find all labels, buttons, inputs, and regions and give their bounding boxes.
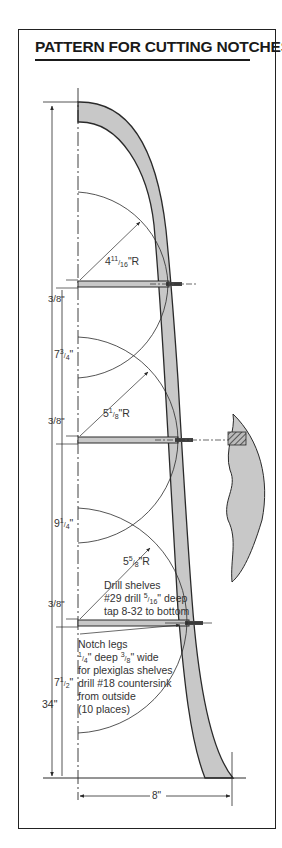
note-drill-line1: Drill shelves xyxy=(104,579,161,591)
label-radius-bottom: 55/8"R xyxy=(123,555,150,568)
label-radius-middle: 51/8"R xyxy=(103,407,130,420)
note-notch-line5: from outside xyxy=(78,690,136,702)
threaded-insert-icon xyxy=(228,432,246,445)
label-spacing-bottom: 71/2" xyxy=(54,676,74,689)
note-drill-line3: tap 8-32 to bottom xyxy=(104,605,189,617)
label-shelf-thickness-top: 3/8" xyxy=(48,293,65,304)
label-width: 8" xyxy=(152,790,162,801)
note-notch-line6: (10 places) xyxy=(78,703,130,715)
notch-pattern-diagram: 3/8" 411/16"R 73/4" 3/8" 51/8"R 91/4" 55… xyxy=(0,0,282,848)
label-shelf-thickness-bottom: 3/8" xyxy=(48,598,65,609)
note-drill-line2: #29 drill 5/16" deep xyxy=(104,592,188,605)
note-notch-line1: Notch legs xyxy=(78,638,128,650)
label-shelf-thickness-middle: 3/8" xyxy=(48,415,65,426)
label-spacing-middle: 91/4" xyxy=(54,517,74,530)
note-notch-line4: drill #18 countersink xyxy=(78,677,172,689)
note-notch-line3: for plexiglas shelves xyxy=(78,664,173,676)
note-notch-line2: 1/4" deep 3/8" wide xyxy=(78,651,159,664)
label-radius-top: 411/16"R xyxy=(105,255,140,268)
label-overall-height: 34" xyxy=(42,698,58,710)
label-spacing-top: 73/4" xyxy=(54,348,74,361)
